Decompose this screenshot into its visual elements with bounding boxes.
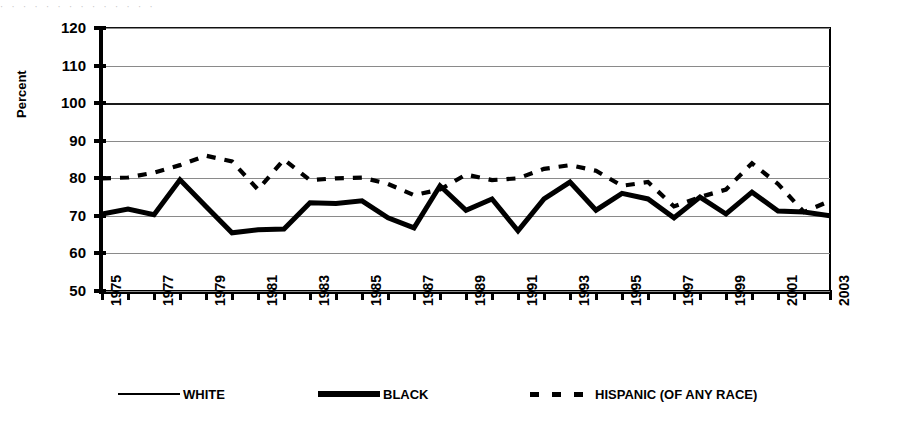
x-tick-1976 xyxy=(127,292,130,300)
y-axis-label: Percent xyxy=(14,70,29,118)
y-tick-label-70: 70 xyxy=(36,208,86,223)
y-tick-label-80: 80 xyxy=(36,170,86,185)
legend-label-white: WHITE xyxy=(183,387,225,402)
y-tick-label-60: 60 xyxy=(36,245,86,260)
x-tick-1981 xyxy=(257,292,260,300)
x-tick-1990 xyxy=(491,292,494,300)
x-tick-2003 xyxy=(829,292,832,300)
x-tick-1978 xyxy=(179,292,182,300)
y-tick-label-110: 110 xyxy=(36,58,86,73)
x-tick-1977 xyxy=(153,292,156,300)
y-tick-label-90: 90 xyxy=(36,133,86,148)
x-tick-1993 xyxy=(569,292,572,300)
legend-swatch-white-line-icon xyxy=(118,393,180,395)
x-tick-1987 xyxy=(413,292,416,300)
plot-area xyxy=(102,28,830,291)
y-tick-label-50: 50 xyxy=(36,283,86,298)
x-tick-1980 xyxy=(231,292,234,300)
x-tick-2001 xyxy=(777,292,780,300)
x-tick-1998 xyxy=(699,292,702,300)
x-tick-1986 xyxy=(387,292,390,300)
x-tick-1975 xyxy=(101,292,104,300)
x-tick-1991 xyxy=(517,292,520,300)
x-tick-1982 xyxy=(283,292,286,300)
x-tick-2000 xyxy=(751,292,754,300)
x-tick-1992 xyxy=(543,292,546,300)
x-tick-1989 xyxy=(465,292,468,300)
legend-label-hispanic: HISPANIC (OF ANY RACE) xyxy=(595,387,757,402)
legend-item-black: BLACK xyxy=(318,382,429,406)
series-lines xyxy=(102,28,830,291)
series-line-white xyxy=(102,180,830,233)
x-tick-1979 xyxy=(205,292,208,300)
x-tick-1994 xyxy=(595,292,598,300)
series-line-black xyxy=(102,180,830,233)
x-tick-1985 xyxy=(361,292,364,300)
legend-swatch-black-line-icon xyxy=(318,391,380,397)
y-tick-label-120: 120 xyxy=(36,20,86,35)
series-line-hispanic-of-any-race xyxy=(102,156,830,212)
x-tick-1995 xyxy=(621,292,624,300)
chart-legend: WHITE BLACK HISPANIC (OF ANY RACE) xyxy=(0,382,906,408)
chart-page: · · · · · · · · · · · · · · Percent 1201… xyxy=(0,0,906,429)
x-tick-label-2003: 2003 xyxy=(837,275,851,306)
scan-artifact-text: · · · · · · · · · · · · · · xyxy=(0,0,906,14)
legend-swatch-hispanic-dashed-icon xyxy=(530,392,592,397)
x-tick-2002 xyxy=(803,292,806,300)
legend-item-hispanic: HISPANIC (OF ANY RACE) xyxy=(530,382,757,406)
x-tick-1996 xyxy=(647,292,650,300)
legend-item-white: WHITE xyxy=(118,382,225,406)
y-tick-label-100: 100 xyxy=(36,95,86,110)
x-tick-1988 xyxy=(439,292,442,300)
x-tick-1999 xyxy=(725,292,728,300)
x-tick-1984 xyxy=(335,292,338,300)
x-tick-1983 xyxy=(309,292,312,300)
x-tick-1997 xyxy=(673,292,676,300)
legend-label-black: BLACK xyxy=(383,387,429,402)
